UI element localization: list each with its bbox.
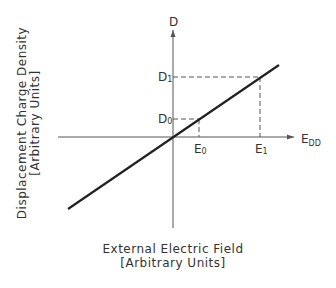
e1-label: E1 (255, 142, 268, 156)
d0-label: D0 (158, 112, 172, 126)
d1-label: D1 (158, 70, 172, 84)
y-axis-label-line1: Displacement Charge Density (15, 27, 29, 219)
x-axis-label-line1: External Electric Field (102, 242, 243, 256)
x-axis-label-line2: [Arbitrary Units] (120, 256, 225, 270)
e0-label: E0 (194, 142, 207, 156)
diagram-canvas: D EDD D1 D0 E0 E1 Displacement Charge De… (0, 0, 336, 288)
x-axis-symbol: EDD (301, 132, 321, 148)
y-axis-label-line2: [Arbitrary Units] (28, 70, 42, 175)
y-axis-symbol: D (169, 15, 178, 29)
